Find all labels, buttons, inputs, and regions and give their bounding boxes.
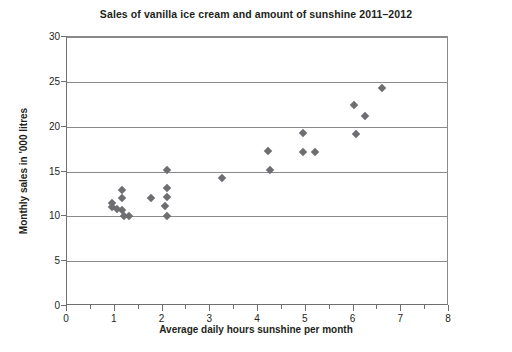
x-tick-mark (448, 305, 449, 311)
data-point (218, 174, 226, 182)
x-tick-label: 3 (206, 313, 212, 324)
y-tick-label: 15 (36, 165, 60, 176)
x-tick-label: 7 (397, 313, 403, 324)
y-tick-label: 0 (36, 300, 60, 311)
x-tick-mark (114, 305, 115, 311)
gridline (67, 127, 447, 128)
data-point (163, 165, 171, 173)
x-axis-title: Average daily hours sunshine per month (0, 324, 512, 335)
x-tick-mark (400, 305, 401, 311)
data-point (161, 201, 169, 209)
x-tick-mark (162, 305, 163, 311)
x-tick-label: 0 (63, 313, 69, 324)
y-tick-label: 10 (36, 210, 60, 221)
y-axis-title: Monthly sales in '000 litres (18, 107, 29, 233)
gridline (67, 82, 447, 83)
x-tick-mark-minor (233, 305, 234, 309)
x-tick-mark-minor (424, 305, 425, 309)
x-tick-mark (257, 305, 258, 311)
y-tick-label: 30 (36, 31, 60, 42)
x-tick-mark (66, 305, 67, 311)
data-point (299, 129, 307, 137)
data-point (263, 147, 271, 155)
x-tick-label: 1 (111, 313, 117, 324)
x-tick-mark-minor (329, 305, 330, 309)
y-tick-label: 25 (36, 75, 60, 86)
x-tick-label: 6 (350, 313, 356, 324)
data-point (266, 165, 274, 173)
x-tick-mark (209, 305, 210, 311)
data-point (163, 212, 171, 220)
scatter-chart: Sales of vanilla ice cream and amount of… (0, 0, 512, 352)
data-point (146, 193, 154, 201)
x-tick-label: 5 (302, 313, 308, 324)
data-point (311, 148, 319, 156)
plot-area (66, 36, 448, 305)
data-point (361, 112, 369, 120)
data-point (118, 194, 126, 202)
data-point (163, 183, 171, 191)
x-tick-mark-minor (185, 305, 186, 309)
x-tick-label: 8 (445, 313, 451, 324)
data-point (163, 192, 171, 200)
x-tick-mark-minor (281, 305, 282, 309)
data-point (349, 101, 357, 109)
x-tick-label: 4 (254, 313, 260, 324)
x-tick-mark (305, 305, 306, 311)
x-tick-mark (353, 305, 354, 311)
x-tick-mark-minor (138, 305, 139, 309)
data-point (299, 148, 307, 156)
data-point (352, 130, 360, 138)
x-tick-mark-minor (376, 305, 377, 309)
chart-title: Sales of vanilla ice cream and amount of… (0, 8, 512, 20)
x-tick-label: 2 (159, 313, 165, 324)
x-tick-mark-minor (90, 305, 91, 309)
gridline (67, 261, 447, 262)
data-point (125, 212, 133, 220)
y-tick-label: 20 (36, 120, 60, 131)
y-tick-label: 5 (36, 255, 60, 266)
data-point (378, 84, 386, 92)
gridline (67, 37, 447, 38)
gridline (67, 172, 447, 173)
